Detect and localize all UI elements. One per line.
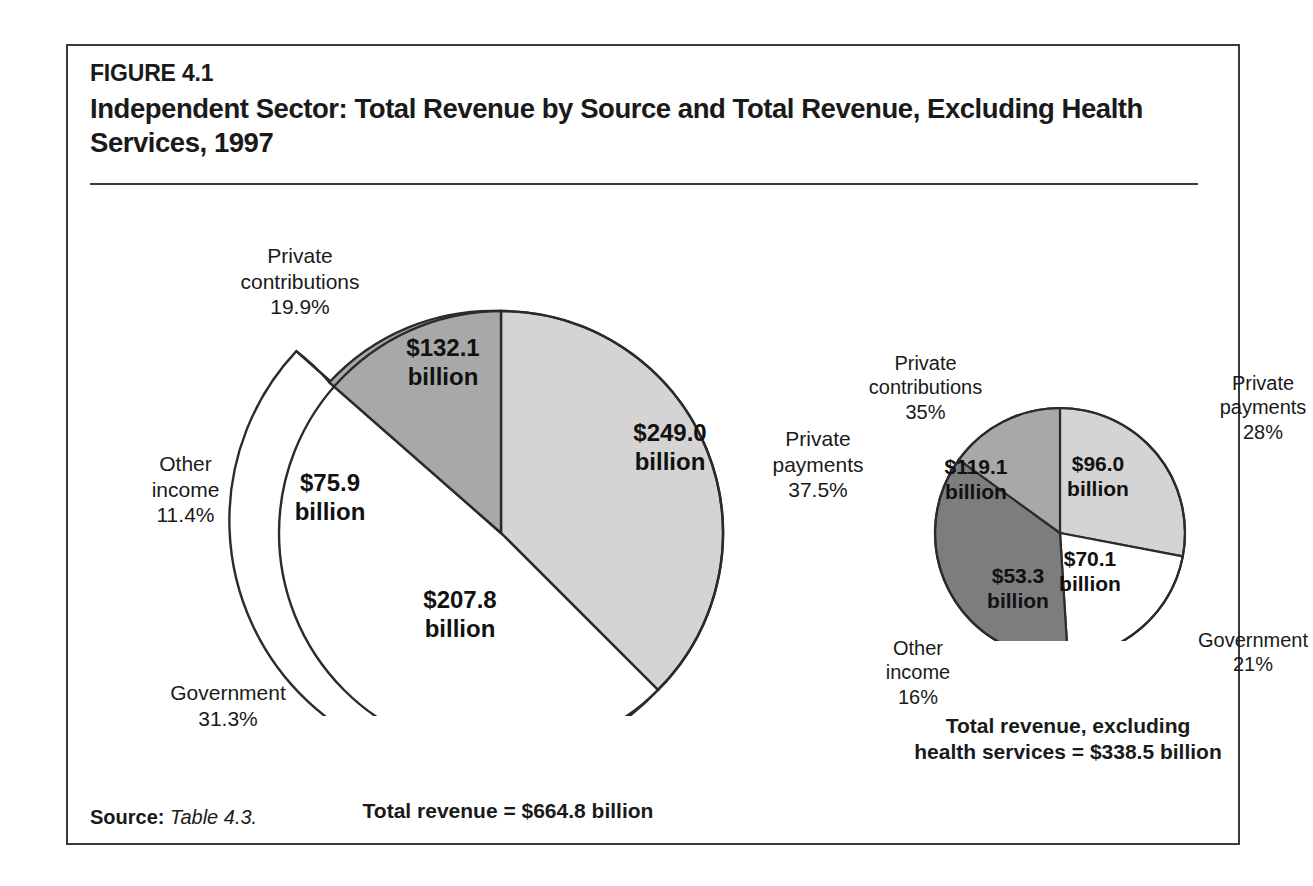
svg-text:billion: billion bbox=[295, 498, 366, 525]
pie-outline bbox=[935, 408, 1185, 641]
left-label-private-contributions: Private contributions 19.9% bbox=[200, 243, 400, 320]
svg-text:billion: billion bbox=[987, 589, 1049, 612]
svg-text:billion: billion bbox=[1059, 572, 1121, 595]
title-divider bbox=[90, 183, 1198, 185]
slice-value-labels: .vlab { font-family: "Liberation Sans", … bbox=[68, 46, 1242, 847]
left-pie-chart bbox=[213, 246, 793, 716]
right-label-other-income: Other income 16% bbox=[843, 636, 993, 709]
svg-text:billion: billion bbox=[945, 480, 1007, 503]
svg-text:$53.3: $53.3 bbox=[992, 564, 1045, 587]
figure-frame: FIGURE 4.1 Independent Sector: Total Rev… bbox=[66, 44, 1240, 845]
source-reference: Table 4.3. bbox=[164, 806, 257, 828]
svg-text:$75.9: $75.9 bbox=[300, 469, 360, 496]
svg-text:billion: billion bbox=[1067, 477, 1129, 500]
svg-text:billion: billion bbox=[635, 448, 706, 475]
source-label: Source: bbox=[90, 806, 164, 828]
left-value-government: $207.8 billion bbox=[423, 586, 496, 642]
svg-text:$70.1: $70.1 bbox=[1064, 547, 1117, 570]
left-total-revenue-caption: Total revenue = $664.8 billion bbox=[248, 798, 768, 824]
svg-text:$119.1: $119.1 bbox=[944, 455, 1007, 478]
right-pie-chart bbox=[858, 351, 1188, 641]
right-value-private-payments: $96.0 billion bbox=[1067, 452, 1129, 500]
right-label-private-payments: Private payments 28% bbox=[1178, 371, 1313, 444]
left-label-private-payments: Private payments 37.5% bbox=[738, 426, 898, 503]
svg-text:$249.0: $249.0 bbox=[633, 419, 706, 446]
right-total-revenue-caption: Total revenue, excluding health services… bbox=[868, 713, 1268, 766]
left-label-government: Government 31.3% bbox=[128, 680, 328, 731]
pie-slice-private-contributions bbox=[329, 311, 501, 533]
pie-slice-private-payments bbox=[501, 311, 723, 690]
figure-number: FIGURE 4.1 bbox=[90, 60, 213, 87]
right-label-private-contributions: Private contributions 35% bbox=[828, 351, 1023, 424]
svg-text:billion: billion bbox=[408, 363, 479, 390]
pie-slice-private-payments bbox=[1060, 408, 1185, 556]
left-value-other-income: $75.9 billion bbox=[295, 469, 366, 525]
pie-slice-private-contributions bbox=[959, 408, 1060, 533]
svg-text:$132.1: $132.1 bbox=[406, 334, 479, 361]
pie-slice-government bbox=[229, 351, 658, 716]
charts-container: .vlab { font-family: "Liberation Sans", … bbox=[68, 46, 1238, 843]
page-title: Independent Sector: Total Revenue by Sou… bbox=[90, 92, 1210, 160]
pie-slice-other-income bbox=[935, 460, 1068, 641]
left-value-private-contributions: $132.1 billion bbox=[406, 334, 479, 390]
right-value-government: $70.1 billion bbox=[1059, 547, 1121, 595]
svg-text:$96.0: $96.0 bbox=[1072, 452, 1125, 475]
svg-text:$207.8: $207.8 bbox=[423, 586, 496, 613]
right-value-private-contributions: $119.1 billion bbox=[944, 455, 1007, 503]
source-line: Source: Table 4.3. bbox=[90, 806, 257, 829]
pie-outline bbox=[279, 311, 723, 716]
left-label-other-income: Other income 11.4% bbox=[118, 451, 253, 528]
left-value-private-payments: $249.0 billion bbox=[633, 419, 706, 475]
svg-text:billion: billion bbox=[425, 615, 496, 642]
pie-slice-government bbox=[1060, 533, 1183, 641]
right-label-government: Government 21% bbox=[1163, 628, 1313, 677]
pie-slice-other-income bbox=[296, 351, 501, 533]
right-value-other-income: $53.3 billion bbox=[987, 564, 1049, 612]
